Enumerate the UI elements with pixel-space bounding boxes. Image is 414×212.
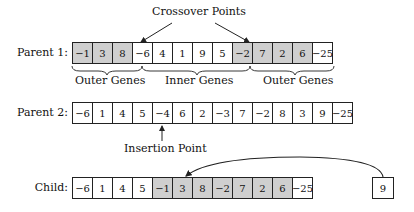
gene-cell: −6	[72, 177, 93, 199]
gene-cell: −4	[152, 102, 173, 124]
gene-cell: 1	[92, 177, 113, 199]
insertion-point-label: Insertion Point	[124, 142, 207, 156]
crossover-arrow-left	[141, 23, 172, 42]
gene-cell: 4	[112, 102, 133, 124]
gene-cell: −25	[332, 102, 353, 124]
outer-genes-label-right: Outer Genes	[263, 74, 333, 88]
gene-cell: 5	[132, 102, 153, 124]
gene-cell: 4	[152, 42, 173, 64]
moved-gene-cell: 9	[372, 177, 394, 199]
child-chromosome: −6 1 4 5 −1 3 8 −2 7 2 6 −25	[72, 177, 313, 199]
gene-cell: −25	[292, 177, 313, 199]
gene-cell: 1	[172, 42, 193, 64]
crossover-points-label: Crossover Points	[152, 5, 246, 19]
gene-cell: 9	[192, 42, 213, 64]
gene-cell: 1	[92, 102, 113, 124]
gene-cell: 8	[272, 102, 293, 124]
crossover-arrow-right	[215, 23, 249, 42]
gene-cell: 8	[192, 177, 213, 199]
gene-cell: 3	[292, 102, 313, 124]
gene-cell: −1	[152, 177, 173, 199]
gene-cell: 5	[132, 177, 153, 199]
gene-cell: 3	[92, 42, 113, 64]
gene-cell: 6	[272, 177, 293, 199]
outer-genes-label-left: Outer Genes	[75, 74, 145, 88]
reinsertion-arrow	[186, 157, 383, 177]
child-label: Child:	[0, 177, 68, 199]
gene-cell: 8	[112, 42, 133, 64]
gene-cell: −6	[132, 42, 153, 64]
gene-cell: −2	[232, 42, 253, 64]
parent2-chromosome: −6 1 4 5 −4 6 2 −3 7 −2 8 3 9 −25	[72, 102, 353, 124]
gene-cell: 7	[232, 177, 253, 199]
gene-cell: 3	[172, 177, 193, 199]
gene-cell: 9	[312, 102, 333, 124]
gene-cell: −2	[252, 102, 273, 124]
gene-cell: 2	[272, 42, 293, 64]
gene-cell: 6	[292, 42, 313, 64]
gene-cell: 2	[192, 102, 213, 124]
gene-cell: 4	[112, 177, 133, 199]
inner-genes-label: Inner Genes	[165, 74, 233, 88]
gene-cell: 7	[232, 102, 253, 124]
gene-cell: −1	[72, 42, 93, 64]
gene-cell: 7	[252, 42, 273, 64]
parent2-label: Parent 2:	[0, 102, 68, 124]
gene-cell: −25	[312, 42, 333, 64]
gene-cell: −3	[212, 102, 233, 124]
gene-cell: −6	[72, 102, 93, 124]
gene-cell: 6	[172, 102, 193, 124]
parent1-chromosome: −1 3 8 −6 4 1 9 5 −2 7 2 6 −25	[72, 42, 333, 64]
parent1-label: Parent 1:	[0, 42, 68, 64]
gene-cell: 5	[212, 42, 233, 64]
gene-cell: 2	[252, 177, 273, 199]
gene-cell: −2	[212, 177, 233, 199]
